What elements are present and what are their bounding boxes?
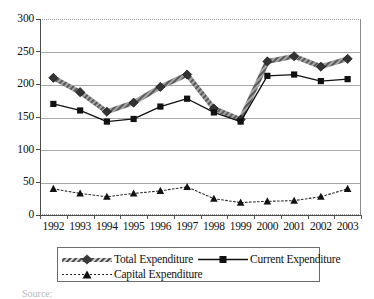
y-tick-label: 100 [2, 144, 34, 155]
legend-entry-capital: Capital Expenditure [62, 267, 203, 281]
gridline-50 [41, 183, 360, 184]
y-axis-labels: 300 250 200 150 100 50 0 [0, 0, 34, 296]
y-tick-label: 200 [2, 78, 34, 89]
x-tick-mark [94, 215, 95, 219]
legend-swatch-capital-icon [62, 269, 112, 280]
y-tick-mark [36, 117, 40, 118]
y-tick-mark [36, 182, 40, 183]
x-tick-mark [281, 215, 282, 219]
gridline-150 [41, 118, 360, 119]
legend-swatch-total-icon [62, 254, 112, 265]
x-tick-mark [201, 215, 202, 219]
legend-entry-current: Current Expenditure [198, 252, 340, 266]
x-tick-mark [254, 215, 255, 219]
y-axis-line [40, 19, 41, 215]
x-tick-mark [174, 215, 175, 219]
x-tick-mark [67, 215, 68, 219]
y-tick-label: 300 [2, 13, 34, 24]
legend-entry-total: Total Expenditure [62, 252, 193, 266]
plot-area [40, 19, 361, 215]
x-tick-mark [308, 215, 309, 219]
x-tick-mark [40, 215, 41, 219]
y-tick-label: 150 [2, 111, 34, 122]
x-tick-mark [227, 215, 228, 219]
gridline-250 [41, 52, 360, 53]
y-tick-mark [36, 149, 40, 150]
gridline-200 [41, 85, 360, 86]
chart-legend: Total Expenditure Current Expenditure Ca… [57, 247, 320, 282]
y-tick-label: 0 [2, 209, 34, 220]
y-tick-label: 50 [2, 176, 34, 187]
source-caption: Source: [22, 288, 53, 299]
legend-label-current: Current Expenditure [250, 253, 340, 266]
x-tick-mark [361, 215, 362, 219]
x-tick-label: 2003 [332, 220, 364, 233]
y-tick-mark [36, 84, 40, 85]
gridline-100 [41, 150, 360, 151]
x-tick-mark [120, 215, 121, 219]
legend-swatch-current-icon [198, 254, 248, 265]
y-tick-mark [36, 19, 40, 20]
legend-label-total: Total Expenditure [114, 253, 193, 266]
y-tick-label: 250 [2, 46, 34, 57]
legend-label-capital: Capital Expenditure [114, 268, 203, 281]
x-tick-mark [147, 215, 148, 219]
x-tick-mark [334, 215, 335, 219]
y-tick-mark [36, 51, 40, 52]
